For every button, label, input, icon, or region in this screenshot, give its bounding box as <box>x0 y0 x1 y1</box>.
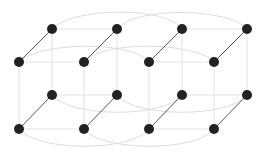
node-front-top-4 <box>209 57 219 67</box>
node-front-top-3 <box>144 57 154 67</box>
node-back-bottom-3 <box>177 90 187 100</box>
node-back-top-3 <box>177 24 187 34</box>
node-back-bottom-4 <box>242 90 252 100</box>
node-back-bottom-1 <box>47 90 57 100</box>
node-front-top-2 <box>79 57 89 67</box>
node-back-top-2 <box>112 24 122 34</box>
depth-edges <box>19 29 247 129</box>
lattice-diagram <box>0 0 262 156</box>
nodes <box>14 24 252 134</box>
node-back-top-4 <box>242 24 252 34</box>
node-front-bottom-3 <box>144 124 154 134</box>
node-back-top-1 <box>47 24 57 34</box>
grid-edges <box>19 29 247 129</box>
node-front-bottom-4 <box>209 124 219 134</box>
node-back-bottom-2 <box>112 90 122 100</box>
node-front-bottom-2 <box>79 124 89 134</box>
node-front-bottom-1 <box>14 124 24 134</box>
node-front-top-1 <box>14 57 24 67</box>
